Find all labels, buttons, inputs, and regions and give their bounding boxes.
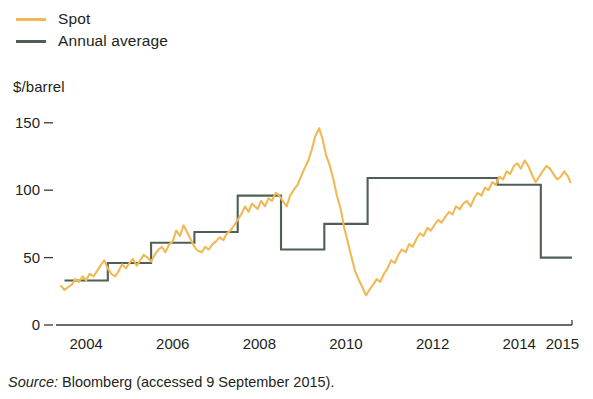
oil-price-figure: Spot Annual average $/barrel 050100150 2… (0, 0, 593, 399)
y-axis-tick-marks (44, 123, 53, 325)
x-axis-tick-label: 2015 (532, 336, 592, 351)
axis-lines (56, 320, 572, 325)
x-axis-tick-label: 2010 (316, 336, 376, 351)
x-axis-tick-label: 2004 (56, 336, 116, 351)
y-axis-tick-label: 0 (0, 317, 40, 332)
plot-area: 050100150 2004200620082010201220142015 (0, 0, 593, 399)
y-axis-tick-label: 150 (0, 115, 40, 130)
y-axis-tick-label: 50 (0, 250, 40, 265)
y-axis-tick-label: 100 (0, 182, 40, 197)
x-axis-tick-label: 2012 (403, 336, 463, 351)
source-note: Source: Bloomberg (accessed 9 September … (8, 374, 334, 390)
x-axis-tick-label: 2008 (229, 336, 289, 351)
source-label: Source: (8, 374, 58, 390)
spot-line (61, 128, 570, 295)
annual-average-line (65, 178, 573, 280)
x-axis-tick-label: 2006 (143, 336, 203, 351)
source-text: Bloomberg (accessed 9 September 2015). (58, 374, 334, 390)
